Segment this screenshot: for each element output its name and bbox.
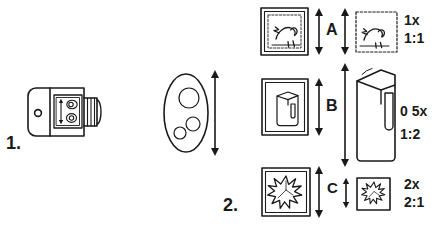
row-b-subject framed-box-icon — [262, 79, 308, 135]
three-circles-icon — [174, 88, 200, 139]
round-port-icon — [35, 110, 42, 117]
row-letter-a: A — [326, 22, 338, 38]
row-b-magnification: 0 5x — [400, 104, 427, 118]
row-c-result small-leaf-stamp-icon — [357, 178, 390, 210]
row-b-ratio: 1:2 — [400, 127, 420, 141]
ribbed-thread-icon — [84, 98, 101, 126]
row-letter-b: B — [326, 98, 338, 114]
row-c-ratio: 2:1 — [404, 195, 424, 209]
row-a-result perforated-bird-stamp-icon — [356, 12, 397, 52]
diagram-canvas: 1. 2. A B C 1x 1:1 0 5x 1:2 2x 2:1 — [0, 0, 438, 227]
oval-subject-with-circles — [164, 74, 215, 152]
up-down-arrow-and-lens-circles-icon — [61, 100, 77, 122]
macro-adapter-body — [28, 88, 101, 136]
row-c-subject framed-leaf-stamp-icon — [262, 168, 310, 216]
step-number-2: 2. — [223, 196, 238, 214]
row-b-result large-3d-box-icon — [357, 69, 395, 162]
step-number-1: 1. — [6, 134, 21, 152]
row-letter-c: C — [327, 180, 338, 195]
row-a-subject framed-bird-stamp-icon — [261, 8, 308, 55]
row-c-magnification: 2x — [404, 177, 420, 191]
row-a-magnification: 1x — [404, 13, 420, 27]
leaf-glyph-large — [268, 176, 302, 208]
diagram-artwork — [0, 0, 438, 227]
leaf-glyph-small — [362, 182, 385, 204]
row-a-ratio: 1:1 — [404, 31, 424, 45]
